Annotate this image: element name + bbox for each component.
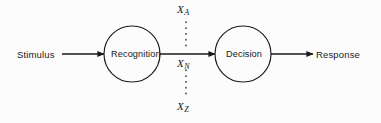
variable-subscript-x-z: Z: [184, 105, 189, 114]
variable-base-x-a: X: [177, 3, 184, 15]
stimulus-label: Stimulus: [17, 50, 55, 60]
variable-label-x-a: XA: [177, 4, 189, 17]
response-label: Response: [316, 50, 360, 60]
variable-subscript-x-n: N: [184, 62, 190, 71]
node-label-recognition: Recognition: [111, 50, 161, 59]
diagram-canvas: [0, 0, 381, 123]
variable-base-x-n: X: [177, 57, 184, 69]
variable-base-x-z: X: [177, 100, 184, 112]
node-label-decision: Decision: [226, 50, 262, 59]
variable-label-x-n: XN: [177, 58, 189, 71]
variable-subscript-x-a: A: [184, 8, 189, 17]
flow-diagram: Stimulus Response Recognition Decision X…: [0, 0, 381, 123]
variable-label-x-z: XZ: [177, 101, 189, 114]
